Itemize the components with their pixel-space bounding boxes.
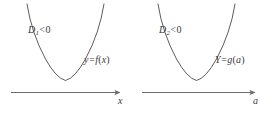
function-close-paren-left: ): [106, 54, 110, 65]
diagram-panel-right: D2<0 Y=g(a) a: [136, 0, 272, 116]
discriminant-label-left: D1<0: [28, 25, 51, 37]
diagram-panel-left: D1<0 y=f(x) x: [0, 0, 136, 116]
function-label-left: y=f(x): [84, 55, 110, 66]
x-axis-label-right: a: [253, 96, 258, 106]
parabola-curve-right: [158, 4, 235, 81]
function-output-right: Y: [215, 54, 221, 65]
discriminant-label-right: D2<0: [159, 25, 182, 37]
function-close-paren-right: ): [241, 54, 245, 65]
function-label-right: Y=g(a): [215, 55, 245, 66]
x-axis-label-left: x: [118, 96, 123, 106]
discriminant-value-left: 0: [45, 24, 50, 35]
discriminant-value-right: 0: [176, 24, 181, 35]
parabola-curve-left: [27, 4, 104, 81]
figure-root: D1<0 y=f(x) x D2<0 Y=g(a) a: [0, 0, 272, 116]
function-output-left: y: [84, 54, 89, 65]
